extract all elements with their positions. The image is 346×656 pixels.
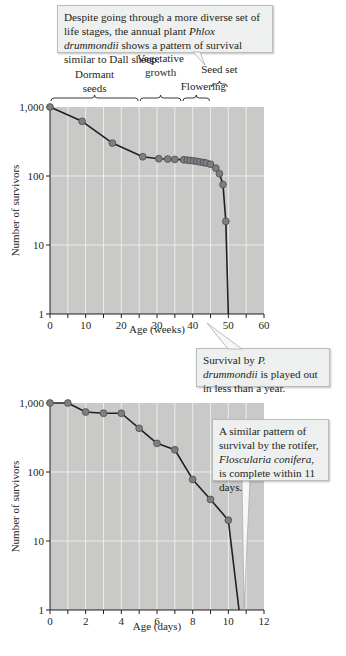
y-tick-label: 1,000	[19, 101, 44, 113]
survivorship-charts: 1101001,0000102030405060Age (weeks)Numbe…	[0, 0, 346, 656]
callout-text: A similar pattern of survival by the rot…	[219, 425, 319, 451]
stage-label: seeds	[83, 82, 107, 94]
data-point	[222, 218, 229, 225]
y-tick-label: 10	[33, 239, 45, 251]
stage-label: Vegetative	[137, 52, 184, 64]
data-point	[216, 170, 223, 177]
x-tick-label: 10	[223, 615, 235, 627]
x-tick-label: 2	[83, 615, 89, 627]
y-tick-label: 10	[33, 535, 45, 547]
x-tick-label: 10	[80, 319, 92, 331]
x-tick-label: 50	[223, 319, 235, 331]
data-point	[171, 156, 178, 163]
callout-pointer	[193, 52, 205, 65]
callout-rotifer: A similar pattern of survival by the rot…	[212, 419, 329, 481]
x-tick-label: 0	[47, 319, 53, 331]
x-axis-label: Age (weeks)	[129, 323, 185, 336]
data-point	[47, 400, 54, 407]
x-tick-label: 12	[259, 615, 270, 627]
y-tick-label: 1,000	[19, 397, 44, 409]
data-point	[171, 446, 178, 453]
stage-bracket	[51, 95, 138, 101]
y-tick-label: 1	[39, 604, 45, 616]
data-point	[155, 155, 162, 162]
data-point	[189, 476, 196, 483]
y-tick-label: 1	[39, 308, 45, 320]
data-point	[118, 410, 125, 417]
chart-phlox: 1101001,0000102030405060Age (weeks)Numbe…	[9, 52, 270, 349]
stage-label: Dormant	[75, 68, 114, 80]
stage-bracket	[140, 95, 181, 101]
y-axis-label: Number of survivors	[9, 165, 21, 257]
x-tick-label: 20	[116, 319, 128, 331]
data-point	[164, 156, 171, 163]
data-point	[220, 181, 227, 188]
y-axis-label: Number of survivors	[9, 461, 21, 553]
data-point	[207, 496, 214, 503]
data-point	[79, 118, 86, 125]
x-tick-label: 4	[119, 615, 125, 627]
x-tick-label: 60	[259, 319, 271, 331]
x-tick-label: 40	[187, 319, 199, 331]
stage-label: Seed set	[201, 63, 237, 75]
data-point	[100, 410, 107, 417]
data-point	[136, 425, 143, 432]
y-tick-label: 100	[28, 170, 45, 182]
data-point	[225, 517, 232, 524]
species-name: Floscularia conifera	[219, 453, 311, 465]
data-point	[64, 400, 71, 407]
x-tick-label: 8	[190, 615, 196, 627]
x-tick-label: 0	[47, 615, 53, 627]
data-point	[82, 409, 89, 416]
x-axis-label: Age (days)	[133, 620, 182, 633]
data-point	[139, 153, 146, 160]
y-tick-label: 100	[28, 466, 45, 478]
stage-label: growth	[145, 66, 177, 78]
data-point	[109, 140, 116, 147]
data-point	[154, 440, 161, 447]
stage-bracket	[183, 95, 210, 101]
data-point	[47, 104, 54, 111]
